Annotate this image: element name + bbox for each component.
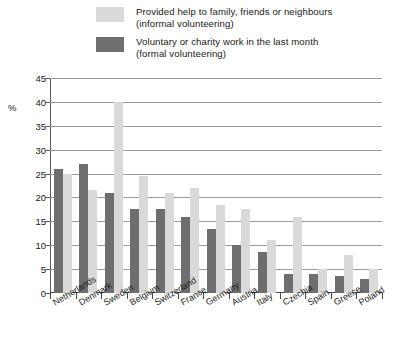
bar-formal	[284, 274, 293, 293]
bar-informal	[216, 205, 225, 293]
bar-group	[127, 78, 153, 293]
legend-item-formal: Voluntary or charity work in the last mo…	[96, 36, 396, 59]
bar-formal	[258, 252, 267, 293]
bar-group	[50, 78, 76, 293]
bar-formal	[54, 169, 63, 293]
bar-informal	[241, 209, 250, 293]
y-axis-label: %	[8, 102, 16, 113]
legend-swatch-formal	[96, 37, 124, 52]
bar-chart: Provided help to family, friends or neig…	[0, 0, 402, 355]
bar-informal	[139, 176, 148, 293]
bar-informal	[293, 217, 302, 293]
chart-legend: Provided help to family, friends or neig…	[96, 6, 396, 66]
bar-group	[305, 78, 331, 293]
bar-group	[331, 78, 357, 293]
legend-label-informal: Provided help to family, friends or neig…	[136, 6, 332, 29]
bar-group	[280, 78, 306, 293]
plot-area: 051015202530354045	[50, 78, 382, 293]
legend-label-formal: Voluntary or charity work in the last mo…	[136, 36, 318, 59]
bar-formal	[130, 209, 139, 293]
bar-groups	[50, 78, 382, 293]
x-axis-labels: NetherlandsDenmarkSwedenBelgiumSwitzerla…	[50, 299, 382, 349]
bar-group	[229, 78, 255, 293]
bar-formal	[207, 229, 216, 294]
bar-informal	[165, 193, 174, 293]
legend-swatch-informal	[96, 7, 124, 22]
legend-label-formal-line2: (formal volunteering)	[136, 48, 318, 60]
bar-formal	[79, 164, 88, 293]
legend-label-informal-line2: (informal volunteering)	[136, 18, 332, 30]
legend-item-informal: Provided help to family, friends or neig…	[96, 6, 396, 29]
bar-formal	[335, 276, 344, 293]
bar-informal	[114, 102, 123, 293]
bar-formal	[105, 193, 114, 293]
bar-group	[254, 78, 280, 293]
bar-formal	[156, 209, 165, 293]
bar-informal	[63, 174, 72, 293]
bar-group	[356, 78, 382, 293]
bar-group	[152, 78, 178, 293]
bar-group	[76, 78, 102, 293]
bar-informal	[267, 240, 276, 293]
bar-group	[203, 78, 229, 293]
bar-group	[101, 78, 127, 293]
legend-label-informal-line1: Provided help to family, friends or neig…	[136, 6, 332, 17]
legend-label-formal-line1: Voluntary or charity work in the last mo…	[136, 36, 318, 47]
bar-group	[178, 78, 204, 293]
